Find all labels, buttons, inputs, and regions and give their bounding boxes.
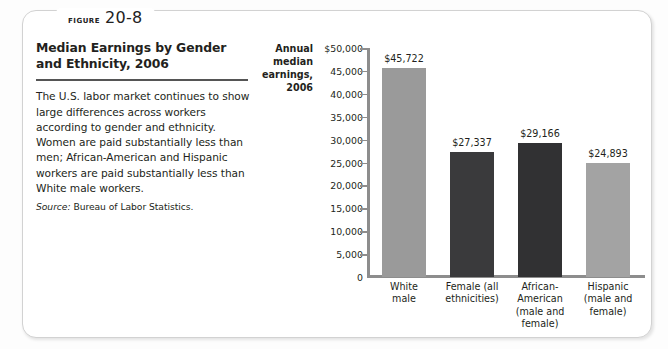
y-tick-label: 35,000 [330, 111, 363, 122]
y-tick-label: 10,000 [330, 226, 363, 237]
y-tick-label: 45,000 [330, 65, 363, 76]
x-label-line: Hispanic [574, 281, 642, 293]
x-label-line: (male and [574, 293, 642, 305]
y-axis-tick-labels: $50,00045,00040,00035,00030,00025,00020,… [313, 40, 367, 290]
y-tick-label: 15,000 [330, 203, 363, 214]
x-axis-category-label: Whitemale [370, 281, 438, 306]
source-label: Source: [36, 201, 71, 212]
bar-group: $29,166 [506, 48, 574, 277]
figure-description-panel: Median Earnings by Gender and Ethnicity,… [36, 40, 250, 212]
figure-source: Source: Bureau of Labor Statistics. [36, 201, 250, 212]
bar [586, 163, 630, 277]
y-axis-tick-mark [360, 185, 367, 187]
y-tick-label: $50,000 [324, 43, 363, 54]
bar-value-label: $24,893 [588, 148, 628, 159]
bar [382, 68, 426, 277]
y-tick-label: 5,000 [336, 249, 363, 260]
x-label-line: ethnicities) [438, 293, 506, 305]
source-text: Bureau of Labor Statistics. [73, 201, 193, 212]
y-axis-tick-mark [360, 231, 367, 233]
x-label-line: Female (all [438, 281, 506, 293]
y-axis-caption: Annual median earnings, 2006 [255, 43, 313, 94]
x-axis-category-label: Female (allethnicities) [438, 281, 506, 306]
y-axis-tick-mark [360, 117, 367, 119]
bar-group: $24,893 [574, 48, 642, 277]
x-label-line: female) [506, 318, 574, 330]
figure-number: 20-8 [105, 8, 143, 27]
y-axis-tick-mark [360, 140, 367, 142]
y-tick-label: 40,000 [330, 88, 363, 99]
bar-chart: Annual median earnings, 2006 $50,00045,0… [255, 40, 645, 340]
bar [518, 143, 562, 277]
bar-value-label: $45,722 [384, 53, 424, 64]
y-axis-tick-mark [360, 48, 367, 50]
y-axis-tick-mark [360, 254, 367, 256]
y-tick-label: 25,000 [330, 157, 363, 168]
bar-group: $27,337 [438, 48, 506, 277]
y-axis-tick-mark [360, 94, 367, 96]
y-axis-tick-mark [360, 163, 367, 165]
plot-area: $45,722$27,337$29,166$24,893 [370, 48, 642, 277]
y-tick-label: 0 [357, 272, 363, 283]
figure-body-text: The U.S. labor market continues to show … [36, 89, 250, 196]
x-label-line: (male and [506, 306, 574, 318]
figure-page: FIGURE 20-8 Median Earnings by Gender an… [0, 0, 668, 349]
figure-title: Median Earnings by Gender and Ethnicity,… [36, 40, 250, 71]
x-axis-category-label: African-American(male andfemale) [506, 281, 574, 330]
figure-label: FIGURE [68, 13, 100, 25]
bar-value-label: $27,337 [452, 137, 492, 148]
x-label-line: female) [574, 306, 642, 318]
x-label-line: male [370, 293, 438, 305]
x-label-line: American [506, 293, 574, 305]
bar-group: $45,722 [370, 48, 438, 277]
title-divider [36, 79, 248, 81]
y-tick-label: 30,000 [330, 134, 363, 145]
y-axis-tick-mark [360, 71, 367, 73]
x-label-line: African- [506, 281, 574, 293]
x-label-line: White [370, 281, 438, 293]
bar-value-label: $29,166 [520, 128, 560, 139]
x-axis-labels: WhitemaleFemale (allethnicities)African-… [370, 281, 642, 341]
y-axis-tick-mark [360, 208, 367, 210]
bar [450, 152, 494, 277]
y-tick-label: 20,000 [330, 180, 363, 191]
x-axis-category-label: Hispanic(male andfemale) [574, 281, 642, 318]
figure-tab: FIGURE 20-8 [56, 8, 155, 32]
